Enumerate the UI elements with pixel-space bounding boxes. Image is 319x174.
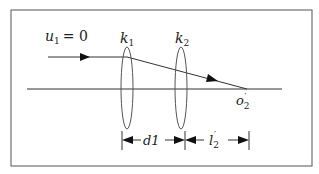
arrow-right-icon — [174, 136, 185, 144]
lens-k1 — [121, 47, 133, 129]
arrow-left-icon — [185, 136, 196, 144]
arrow-right-icon — [238, 136, 249, 144]
optics-diagram: u1= 0 k1 k2 o2′ d1 l2′ — [0, 0, 319, 174]
arrow-left-icon — [122, 136, 133, 144]
d1-label: d1 — [143, 133, 160, 148]
figure-frame — [11, 10, 312, 166]
ray-arrow-icon — [206, 74, 218, 82]
o2-label: o2′ — [236, 92, 250, 111]
lens-k2 — [175, 47, 187, 129]
u1-label: u1= 0 — [45, 28, 88, 46]
l2-label: l2′ — [209, 130, 219, 150]
ray-arrow-icon — [80, 53, 90, 61]
k1-label: k1 — [120, 30, 134, 48]
k2-label: k2 — [175, 30, 189, 48]
